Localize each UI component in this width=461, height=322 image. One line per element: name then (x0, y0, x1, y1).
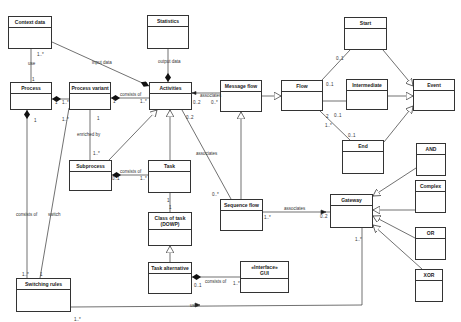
class-name: Sequence flow (221, 200, 262, 211)
edge-label: enriched by (77, 132, 100, 137)
class-name: Gateway (331, 195, 372, 206)
class-name: Process (11, 83, 51, 94)
class-process: Process (10, 82, 52, 110)
edge-label: 1..* (325, 123, 332, 128)
edge-label: 1..* (140, 99, 147, 104)
class-task: Task (148, 160, 191, 193)
class-gui-interface: «Interface» GUI (240, 261, 289, 293)
edge-label: 0..1 (336, 56, 344, 61)
class-or: OR (415, 227, 446, 260)
class-name: Message flow (221, 81, 261, 92)
class-task-alternative: Task alternative (148, 262, 192, 294)
edge-label: associates (200, 93, 221, 98)
class-switching-rules: Switching rules (16, 278, 71, 312)
class-name: «Interface» GUI (241, 262, 288, 279)
uml-class-diagram: Context data Statistics Start Process Pr… (0, 0, 461, 322)
edge-label: 1 (40, 272, 43, 277)
edge-label: 0..2 (186, 115, 194, 120)
class-name: Event (414, 80, 454, 91)
edge-label: 0..1 (326, 82, 334, 87)
class-name: Flow (282, 81, 322, 92)
edge-label: switch (48, 212, 61, 217)
edge-label: 1..* (355, 237, 362, 242)
edge-label: output data (158, 59, 181, 64)
class-name: Task alternative (149, 263, 191, 274)
edge-label: 1..* (74, 317, 81, 322)
edge-label: 1 (32, 77, 35, 82)
edge-label: consists of (205, 279, 226, 284)
class-flow: Flow (281, 80, 323, 111)
edge-label: 0..1 (194, 283, 202, 288)
edge-label: 0..1 (348, 133, 356, 138)
edge-label: 1 (167, 198, 170, 203)
class-end: End (342, 140, 384, 174)
edge-label: 0..2 (320, 214, 328, 219)
edge-label: 2 (326, 114, 329, 119)
class-process-variant: Process variant (69, 82, 111, 110)
edge-label: 1..* (264, 215, 271, 220)
class-context-data: Context data (8, 16, 52, 49)
class-class-of-task: Class of task (DOWP) (148, 212, 192, 246)
edge-label: 1 (34, 118, 37, 123)
class-name: Task (149, 161, 190, 172)
edge-label: 0..1 (112, 176, 120, 181)
class-name: Context data (9, 17, 51, 28)
edge-label: 1 (97, 116, 100, 121)
edge-label: 1..* (37, 52, 44, 57)
class-intermediate: Intermediate (346, 79, 388, 110)
class-name: Statistics (148, 16, 188, 27)
edge-label: 0..* (211, 100, 218, 105)
edge-label: use (190, 303, 197, 308)
class-start: Start (344, 17, 387, 50)
edge-label: consists of (120, 169, 141, 174)
class-xor: XOR (415, 269, 443, 302)
class-subprocess: Subprocess (69, 160, 112, 191)
class-complex: Complex (415, 180, 446, 213)
edge-label: consists of (120, 92, 141, 97)
class-name: End (343, 141, 383, 152)
class-name: Switching rules (17, 279, 70, 290)
edge-label: input data (92, 60, 112, 65)
class-name: Complex (416, 181, 445, 192)
edge-label: associates (196, 151, 217, 156)
edge-label: 0..2 (193, 100, 201, 105)
class-name: XOR (416, 270, 442, 281)
class-name: Start (345, 18, 386, 29)
edge-label: 1 (55, 100, 58, 105)
class-gateway: Gateway (330, 194, 373, 228)
class-name: OR (416, 228, 445, 239)
edge-label: 0..* (212, 192, 219, 197)
edge-label: associates (284, 206, 305, 211)
edge-label: 1 (113, 99, 116, 104)
edge-label: consists of (16, 212, 37, 217)
edge-label: 1..* (140, 176, 147, 181)
class-name: Activities (150, 83, 191, 94)
edge-label: use (28, 61, 35, 66)
class-activities: Activities (149, 82, 192, 110)
class-statistics: Statistics (147, 15, 189, 49)
edge-label: 1..* (62, 100, 69, 105)
edge-label: 1..* (93, 151, 100, 156)
class-name: Class of task (DOWP) (149, 213, 191, 230)
class-sequence-flow: Sequence flow (220, 199, 263, 231)
class-name: AND (417, 144, 445, 155)
edge-label: 1..* (62, 117, 69, 122)
edge-label: 1..* (22, 272, 29, 277)
edge-label: 1..* (233, 281, 240, 286)
class-name: Subprocess (70, 161, 111, 172)
class-and: AND (416, 143, 446, 176)
class-event: Event (413, 79, 455, 111)
class-name: Process variant (70, 83, 110, 94)
edge-label: 0..1 (334, 113, 342, 118)
edge-label: 1 (169, 205, 172, 210)
class-message-flow: Message flow (220, 80, 262, 112)
class-name: Intermediate (347, 80, 387, 91)
